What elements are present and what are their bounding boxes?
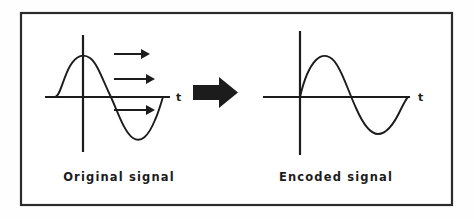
original-x-axis-label: t — [176, 91, 181, 104]
signal-encoding-diagram: t Original signal — [0, 0, 474, 219]
figure-root: t Original signal — [0, 0, 474, 219]
encoded-signal-caption: Encoded signal — [279, 170, 393, 184]
original-signal-caption: Original signal — [63, 170, 175, 184]
encoded-x-axis-label: t — [418, 91, 423, 104]
